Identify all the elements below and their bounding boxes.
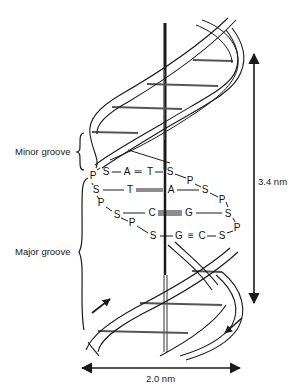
base-pair-rungs-bottom bbox=[98, 271, 222, 333]
sugar-label: S bbox=[150, 231, 157, 241]
sugar-label: S bbox=[167, 167, 174, 177]
base-label: C bbox=[198, 231, 205, 241]
phosphate-label: P bbox=[98, 198, 105, 208]
phosphate-label: P bbox=[234, 223, 241, 233]
base-label: T bbox=[147, 167, 153, 177]
base-label: G bbox=[175, 231, 183, 241]
minor-groove-label: Minor groove bbox=[15, 146, 70, 157]
base-label: T bbox=[127, 185, 133, 195]
sugar-label: S bbox=[93, 185, 100, 195]
diameter-label: 2.0 nm bbox=[146, 373, 175, 384]
pitch-label: 3.4 nm bbox=[258, 176, 287, 187]
phosphate-label: P bbox=[219, 195, 226, 205]
helix-drawing bbox=[0, 0, 302, 391]
sugar-label: S bbox=[219, 231, 226, 241]
sugar-label: S bbox=[103, 167, 110, 177]
dna-helix-diagram: Minor groove Major groove 3.4 nm 2.0 nm … bbox=[0, 0, 302, 391]
major-groove-label: Major groove bbox=[15, 246, 70, 257]
phosphate-label: P bbox=[187, 176, 194, 186]
hydrogen-bond-symbol: ═ bbox=[134, 167, 141, 177]
back-strand-upper bbox=[110, 20, 238, 163]
sugar-label: S bbox=[202, 185, 209, 195]
minor-groove-brace bbox=[77, 133, 84, 170]
hydrogen-bond-symbol: ≡ bbox=[188, 231, 194, 241]
base-label: A bbox=[168, 185, 175, 195]
base-pair-rungs-top bbox=[92, 60, 233, 133]
strand-direction-up-arrow bbox=[92, 299, 110, 313]
backbone-links bbox=[92, 168, 235, 236]
base-label: C bbox=[148, 208, 155, 218]
base-label: A bbox=[124, 167, 131, 177]
major-groove-brace bbox=[79, 178, 88, 330]
base-label: G bbox=[185, 208, 193, 218]
sugar-label: S bbox=[114, 210, 121, 220]
phosphate-label: P bbox=[90, 171, 97, 181]
phosphate-label: P bbox=[129, 218, 136, 228]
sugar-label: S bbox=[225, 209, 232, 219]
